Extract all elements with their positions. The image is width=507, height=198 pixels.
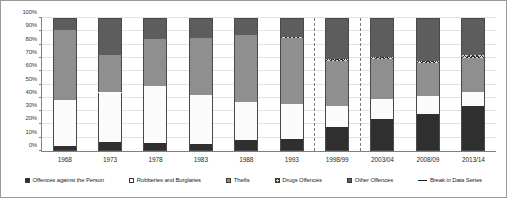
legend-item-label: Other Offences xyxy=(355,177,393,183)
bar-segment[interactable] xyxy=(325,59,349,60)
bar-segment[interactable] xyxy=(325,61,349,106)
y-axis-label: 60% xyxy=(26,62,37,68)
bar-segment[interactable] xyxy=(461,106,485,151)
bar-segment[interactable] xyxy=(370,99,394,119)
stacked-bar[interactable] xyxy=(53,18,77,151)
x-axis-label: 2003/04 xyxy=(371,156,394,163)
bar-segment[interactable] xyxy=(370,57,394,60)
y-axis-label: 30% xyxy=(26,102,37,108)
bar-segment[interactable] xyxy=(416,63,440,96)
bar-segment[interactable] xyxy=(461,55,485,58)
legend-item-label: Offences against the Person xyxy=(33,177,105,183)
bar-segment[interactable] xyxy=(98,18,122,55)
bar-segment[interactable] xyxy=(280,38,304,105)
bar-segment[interactable] xyxy=(280,104,304,139)
bar-segment[interactable] xyxy=(370,18,394,57)
bar-segment[interactable] xyxy=(416,61,440,64)
bar-segment[interactable] xyxy=(234,102,258,141)
bar-segment[interactable] xyxy=(461,18,485,55)
bar-segment[interactable] xyxy=(98,142,122,151)
y-axis-label: 0% xyxy=(29,142,37,148)
bar-segment[interactable] xyxy=(370,59,394,99)
y-axis-label: 40% xyxy=(26,89,37,95)
bar-segment[interactable] xyxy=(143,143,167,151)
legend-item-label: Drugs Offences xyxy=(282,177,321,183)
bar-slot: 1988 xyxy=(224,18,269,151)
y-axis-label: 20% xyxy=(26,115,37,121)
bar-segment[interactable] xyxy=(461,92,485,105)
legend-swatch-icon xyxy=(129,178,134,183)
bar-segment[interactable] xyxy=(325,106,349,127)
bar-segment[interactable] xyxy=(280,37,304,38)
y-axis-label: 10% xyxy=(26,129,37,135)
stacked-bar[interactable] xyxy=(416,18,440,151)
bar-segment[interactable] xyxy=(143,86,167,143)
stacked-bar[interactable] xyxy=(98,18,122,151)
bar-segment[interactable] xyxy=(325,18,349,59)
bar-slot: 2008/09 xyxy=(405,18,450,151)
bar-segment[interactable] xyxy=(234,140,258,151)
y-axis-label: 100% xyxy=(22,9,37,15)
chart-legend: Offences against the PersonRobberies and… xyxy=(17,174,490,186)
legend-line-icon xyxy=(418,180,427,181)
bar-segment[interactable] xyxy=(53,30,77,100)
bar-segment[interactable] xyxy=(325,127,349,151)
legend-item[interactable]: Break in Data Series xyxy=(418,177,482,183)
bar-segment[interactable] xyxy=(189,95,213,144)
bar-segment[interactable] xyxy=(189,38,213,95)
bar-segment[interactable] xyxy=(461,58,485,93)
bar-segment[interactable] xyxy=(53,146,77,151)
legend-item[interactable]: Drugs Offences xyxy=(275,177,322,183)
stacked-bar[interactable] xyxy=(461,18,485,151)
legend-item[interactable]: Thefts xyxy=(226,177,249,183)
bar-segment[interactable] xyxy=(53,18,77,30)
chart-container: 0%10%20%30%40%50%60%70%80%90%100% 196819… xyxy=(0,0,507,198)
bar-segment[interactable] xyxy=(234,18,258,35)
bar-slot: 1968 xyxy=(42,18,87,151)
legend-item-label: Thefts xyxy=(234,177,250,183)
bar-segment[interactable] xyxy=(416,114,440,151)
bar-segment[interactable] xyxy=(416,18,440,61)
bar-segment[interactable] xyxy=(98,93,122,142)
bar-segment[interactable] xyxy=(416,96,440,113)
bar-slot: 2003/04 xyxy=(360,18,405,151)
y-axis-label: 80% xyxy=(26,36,37,42)
x-axis-label: 1988 xyxy=(239,156,253,163)
bar-segment[interactable] xyxy=(143,39,167,86)
plot-area: 0%10%20%30%40%50%60%70%80%90%100% 196819… xyxy=(41,18,496,152)
bar-segment[interactable] xyxy=(280,139,304,151)
bar-segment[interactable] xyxy=(280,18,304,37)
stacked-bar[interactable] xyxy=(370,18,394,151)
x-axis-label: 1968 xyxy=(58,156,72,163)
legend-swatch-icon xyxy=(226,178,231,183)
x-axis-label: 1993 xyxy=(285,156,299,163)
bar-segment[interactable] xyxy=(370,119,394,151)
bar-slot: 1983 xyxy=(178,18,223,151)
legend-item[interactable]: Other Offences xyxy=(347,177,393,183)
bar-segment[interactable] xyxy=(189,144,213,151)
stacked-bar[interactable] xyxy=(143,18,167,151)
bar-slot: 1998/99 xyxy=(314,18,359,151)
bar-segment[interactable] xyxy=(189,18,213,38)
bar-segment[interactable] xyxy=(234,35,258,102)
stacked-bar[interactable] xyxy=(189,18,213,151)
bar-segment[interactable] xyxy=(143,18,167,39)
legend-item-label: Robberies and Burglaries xyxy=(137,177,201,183)
bar-segment[interactable] xyxy=(98,55,122,92)
stacked-bar[interactable] xyxy=(280,18,304,151)
x-axis-label: 2013/14 xyxy=(462,156,485,163)
y-axis-label: 90% xyxy=(26,22,37,28)
x-axis-label: 1998/99 xyxy=(326,156,349,163)
legend-item[interactable]: Robberies and Burglaries xyxy=(129,177,201,183)
bar-slot: 1978 xyxy=(133,18,178,151)
legend-swatch-icon xyxy=(275,178,280,183)
bar-slot: 2013/14 xyxy=(451,18,496,151)
x-axis-label: 1973 xyxy=(103,156,117,163)
bar-slot: 1993 xyxy=(269,18,314,151)
stacked-bar[interactable] xyxy=(234,18,258,151)
y-axis-label: 70% xyxy=(26,49,37,55)
stacked-bar[interactable] xyxy=(325,18,349,151)
bar-segment[interactable] xyxy=(53,100,77,145)
legend-item[interactable]: Offences against the Person xyxy=(25,177,104,183)
break-in-data-series-line xyxy=(360,18,361,151)
